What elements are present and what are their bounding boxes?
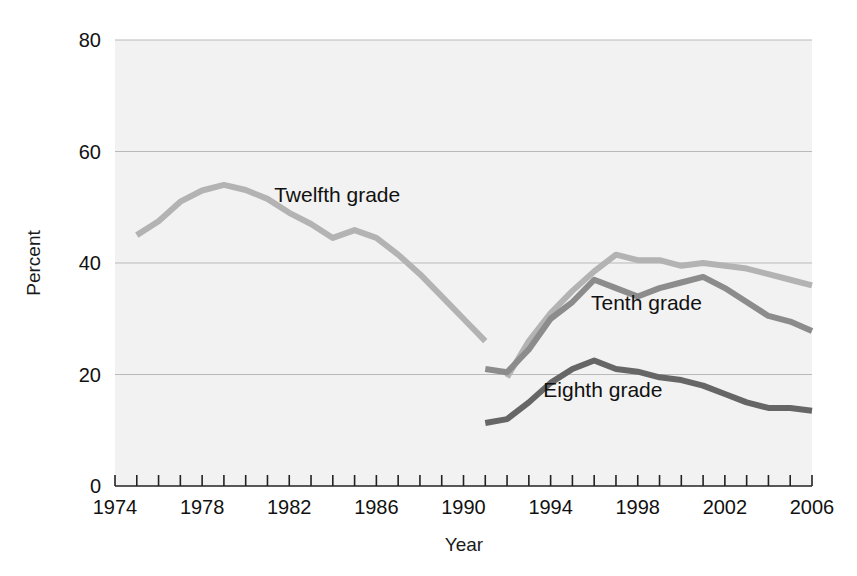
x-tick-label: 1982 (267, 496, 312, 518)
series-annotation-label: Twelfth grade (274, 183, 400, 206)
y-tick-label: 40 (79, 252, 101, 274)
y-tick-label: 0 (90, 475, 101, 497)
x-tick-label: 1986 (354, 496, 399, 518)
x-tick-label: 1994 (528, 496, 573, 518)
x-tick-label: 1974 (93, 496, 138, 518)
y-tick-label: 80 (79, 29, 101, 51)
x-axis-title: Year (445, 534, 484, 555)
y-tick-label: 60 (79, 141, 101, 163)
series-annotation-label: Tenth grade (591, 291, 702, 314)
line-chart: 020406080 197419781982198619901994199820… (0, 0, 857, 576)
y-tick-label: 20 (79, 364, 101, 386)
x-axis-tick-labels: 197419781982198619901994199820022006 (93, 496, 835, 518)
x-tick-label: 1998 (616, 496, 661, 518)
x-tick-label: 2002 (703, 496, 748, 518)
x-tick-label: 2006 (790, 496, 835, 518)
x-tick-label: 1978 (180, 496, 225, 518)
y-axis-title: Percent (23, 230, 44, 296)
series-annotation-label: Eighth grade (543, 378, 662, 401)
x-tick-label: 1990 (441, 496, 486, 518)
